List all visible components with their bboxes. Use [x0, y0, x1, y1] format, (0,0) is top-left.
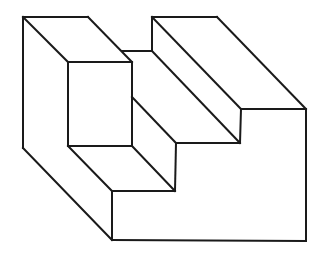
edge-base-bottom	[112, 240, 306, 241]
figure-edges	[23, 17, 306, 241]
edge-left-block-diag-inner	[88, 17, 132, 62]
edge-lower-step-riser-diag	[132, 97, 176, 143]
edge-lower-tread-diag-right	[132, 146, 175, 191]
edge-mid-step-diag	[152, 51, 240, 143]
edge-left-bottom-diag	[23, 148, 112, 240]
edge-left-block-diag-outer	[23, 17, 68, 62]
edge-lower-tread-diag-left	[68, 146, 112, 191]
edge-right-step-vertical	[240, 109, 241, 143]
edge-right-block-diag-outer	[217, 17, 306, 109]
edge-right-block-diag-inner	[152, 17, 241, 109]
edge-lower-step-riser-vertical	[175, 143, 176, 191]
staircase-line-drawing	[0, 0, 323, 254]
